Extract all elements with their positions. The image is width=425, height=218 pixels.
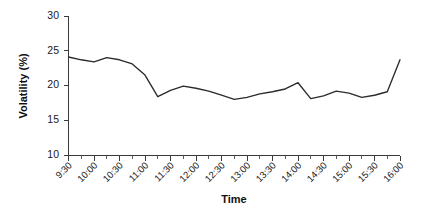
y-tick-label: 30	[47, 9, 59, 21]
y-tick-label: 25	[47, 44, 59, 56]
volatility-line-chart: 1015202530 9:3010:0010:3011:0011:3012:00…	[0, 0, 425, 218]
chart-background	[0, 0, 425, 218]
y-tick-label: 20	[47, 78, 59, 90]
chart-canvas: 1015202530 9:3010:0010:3011:0011:3012:00…	[0, 0, 425, 218]
y-axis-title: Volatility (%)	[17, 53, 29, 119]
y-tick-label: 15	[47, 113, 59, 125]
x-axis-title: Time	[221, 193, 246, 205]
y-tick-label: 10	[47, 148, 59, 160]
